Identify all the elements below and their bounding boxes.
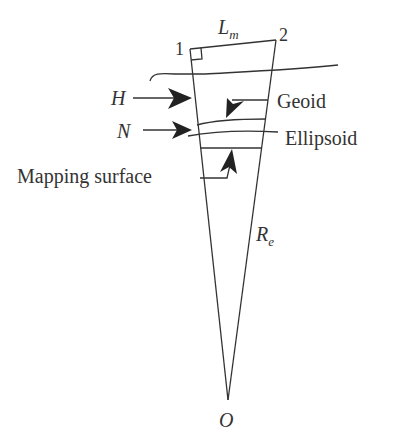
radial-line-left [190,49,228,400]
terrain-surface [150,65,338,81]
n-label: N [117,121,130,141]
lm-main: L [218,16,229,38]
geoid-arrowhead-icon [226,98,244,118]
point-2-label: 2 [279,26,288,44]
ellipsoid-label: Ellipsoid [285,128,357,148]
re-subscript: e [268,234,274,249]
geoid-surface [197,119,266,125]
radial-line-right [228,40,276,400]
ellipsoid-surface [188,131,278,136]
lm-label: Lm [218,17,239,37]
point-1-label: 1 [175,40,184,58]
lm-subscript: m [229,27,238,42]
mapping-surface-label: Mapping surface [17,166,152,186]
h-label: H [111,88,125,108]
right-angle-marker [191,48,202,60]
origin-label: O [219,410,233,430]
re-label: Re [256,224,274,244]
geoid-label: Geoid [277,91,326,111]
re-main: R [256,223,268,245]
geodetic-diagram [0,0,393,439]
